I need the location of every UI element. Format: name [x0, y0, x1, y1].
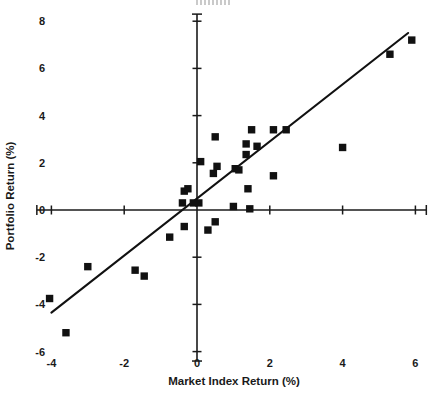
plot-canvas: -6-4-202468 -4-20246 Market Index Return… [0, 0, 428, 397]
x-tick-label: 0 [194, 357, 200, 369]
data-point [253, 143, 260, 150]
y-axis [192, 14, 202, 361]
data-point [242, 140, 249, 147]
data-point [210, 170, 217, 177]
y-tick-label: 4 [39, 110, 46, 122]
data-point [184, 185, 191, 192]
data-point [246, 205, 253, 212]
x-axis-title: Market Index Return (%) [168, 375, 300, 387]
x-tick-label: 6 [412, 357, 418, 369]
data-point [244, 185, 251, 192]
data-point [46, 295, 53, 302]
data-point [248, 126, 255, 133]
data-point [242, 151, 249, 158]
data-point [131, 266, 138, 273]
data-point [339, 144, 346, 151]
data-point [62, 329, 69, 336]
data-point [84, 263, 91, 270]
y-tick-label: 6 [39, 62, 45, 74]
data-point [282, 126, 289, 133]
data-point [212, 133, 219, 140]
data-points [46, 36, 416, 336]
y-tick-label: -4 [35, 298, 46, 310]
data-point [212, 218, 219, 225]
data-point [386, 51, 393, 58]
y-tick-label: -6 [35, 346, 45, 358]
x-tick-label: 4 [340, 357, 347, 369]
data-point [270, 126, 277, 133]
y-tick-label: 8 [39, 15, 45, 27]
x-tick-labels: -4-20246 [47, 357, 419, 369]
data-point [195, 199, 202, 206]
x-tick-label: -2 [119, 357, 129, 369]
x-tick-label: -4 [47, 357, 58, 369]
y-tick-label: 0 [39, 204, 45, 216]
y-tick-labels: -6-4-202468 [35, 15, 46, 357]
data-point [235, 166, 242, 173]
data-point [230, 203, 237, 210]
data-point [204, 226, 211, 233]
y-tick-label: 2 [39, 157, 45, 169]
data-point [408, 36, 415, 43]
fit-line [51, 33, 408, 313]
data-point [166, 233, 173, 240]
scatter-plot-figure: -6-4-202468 -4-20246 Market Index Return… [0, 0, 428, 397]
data-point [179, 199, 186, 206]
data-point [213, 163, 220, 170]
data-point [270, 172, 277, 179]
data-point [141, 272, 148, 279]
y-tick-label: -2 [35, 251, 45, 263]
regression-line [51, 33, 408, 313]
y-axis-title: Portfolio Return (%) [4, 142, 16, 251]
x-tick-label: 2 [267, 357, 273, 369]
data-point [181, 223, 188, 230]
data-point [197, 158, 204, 165]
